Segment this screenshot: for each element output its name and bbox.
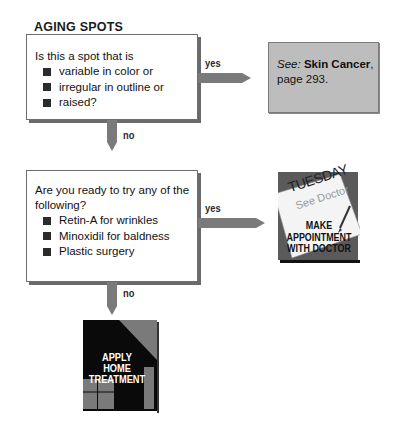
no-label-2: no — [123, 287, 134, 299]
bullet-square-icon — [43, 99, 51, 107]
no-arrow-down-icon — [105, 120, 119, 152]
bullet-square-icon — [43, 68, 51, 76]
outcome-make-appointment: TUESDAY See Doctor MAKE APPOINTMENT WITH… — [278, 172, 360, 264]
outcome-apply-home-treatment: APPLY HOME TREATMENT — [83, 320, 159, 413]
bullet-square-icon — [43, 217, 51, 225]
decision-box-1: Is this a spot that is variable in color… — [26, 34, 198, 120]
decision-box-2: Are you ready to try any of the followin… — [26, 170, 198, 282]
bullet-item: variable in color or — [43, 64, 197, 80]
reference-box: See: Skin Cancer, page 293. — [268, 42, 379, 113]
bullet-item: Plastic surgery — [43, 244, 191, 260]
decision-2-question: Are you ready to try any of the followin… — [35, 183, 191, 213]
decision-1-question: Is this a spot that is — [35, 49, 197, 64]
bullet-item: irregular in outline or — [43, 80, 197, 96]
outcome-doctor-label: MAKE APPOINTMENT WITH DOCTOR — [284, 220, 354, 255]
bullet-item: Retin-A for wrinkles — [43, 213, 191, 229]
bullet-square-icon — [43, 232, 51, 240]
decision-2-bullets: Retin-A for wrinkles Minoxidil for baldn… — [35, 213, 191, 260]
reference-page: page 293. — [277, 73, 328, 85]
decision-1-bullets: variable in color or irregular in outlin… — [35, 64, 197, 111]
no-arrow-down-icon — [105, 282, 119, 316]
bullet-square-icon — [43, 83, 51, 91]
see-label: See: — [277, 58, 301, 70]
yes-label-1: yes — [205, 57, 221, 69]
bullet-square-icon — [43, 248, 51, 256]
yes-label-2: yes — [205, 202, 221, 214]
bullet-item: Minoxidil for baldness — [43, 229, 191, 245]
outcome-home-label: APPLY HOME TREATMENT — [87, 352, 147, 385]
reference-topic: Skin Cancer — [304, 58, 370, 70]
bullet-item: raised? — [43, 95, 197, 111]
no-label-1: no — [123, 129, 134, 141]
page-title: AGING SPOTS — [34, 20, 123, 34]
